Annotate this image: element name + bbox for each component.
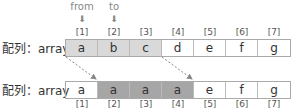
array-after-cell: a	[98, 82, 130, 98]
bottom-index-4: [4]	[162, 99, 194, 109]
bottom-index-2: [2]	[98, 99, 130, 109]
row-label-after: 配列：array	[2, 81, 69, 98]
bottom-index-6: [6]	[226, 99, 258, 109]
bottom-index-7: [7]	[258, 99, 290, 109]
bottom-index-3: [3]	[130, 99, 162, 109]
array-after-cell: e	[194, 82, 226, 98]
array-after-cell: a	[130, 82, 162, 98]
array-after-cell: a	[66, 82, 98, 98]
bottom-index-1: [1]	[66, 99, 98, 109]
array-after-cell: g	[258, 82, 290, 98]
array-after: a a a a e f g	[65, 81, 291, 99]
array-after-cell: f	[226, 82, 258, 98]
array-after-cell: a	[162, 82, 194, 98]
bottom-index-5: [5]	[194, 99, 226, 109]
